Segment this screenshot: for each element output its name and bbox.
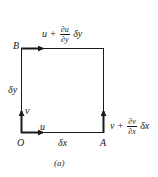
delta-x-label: δx	[58, 138, 67, 148]
u-top-fraction: ∂u ∂y	[60, 26, 70, 44]
figure-caption: (a)	[54, 159, 65, 168]
u-top-denominator: ∂y	[61, 35, 69, 44]
u-origin-label: u	[40, 122, 45, 132]
v-right-numerator: ∂v	[127, 118, 137, 127]
v-origin-label: v	[25, 106, 29, 116]
point-o-label: O	[17, 138, 24, 148]
point-a-label: A	[100, 138, 106, 148]
u-top-tail: δy	[73, 28, 82, 39]
v-right-base: v +	[110, 120, 124, 131]
v-right-expression: v + ∂v ∂x δx	[110, 118, 149, 136]
fluid-element-square	[22, 49, 104, 133]
point-b-label: B	[13, 41, 19, 51]
v-right-fraction: ∂v ∂x	[127, 118, 137, 136]
v-right-tail: δx	[140, 120, 149, 131]
delta-y-label: δy	[8, 85, 17, 95]
u-top-base: u +	[42, 28, 56, 39]
v-right-denominator: ∂x	[128, 127, 136, 136]
u-top-expression: u + ∂u ∂y δy	[42, 26, 82, 44]
u-top-numerator: ∂u	[60, 26, 70, 35]
